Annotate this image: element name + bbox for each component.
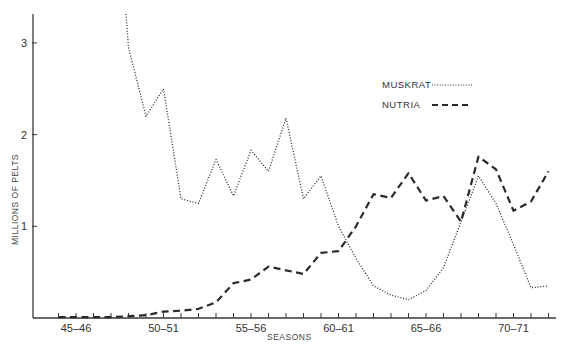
y-tick-label: 2 bbox=[21, 129, 27, 141]
y-tick-label: 1 bbox=[21, 220, 27, 232]
x-tick-label: 55–56 bbox=[236, 322, 267, 334]
legend-label-muskrat: MUSKRAT bbox=[382, 79, 431, 90]
x-tick-label: 45–46 bbox=[61, 322, 92, 334]
x-tick-label: 50–51 bbox=[148, 322, 179, 334]
chart: 12345–4650–5155–5660–6165–6670–71 MILLIO… bbox=[0, 0, 566, 355]
x-axis-title: SEASONS bbox=[267, 332, 312, 342]
legend: MUSKRAT NUTRIA bbox=[382, 79, 473, 110]
x-tick-label: 70–71 bbox=[498, 322, 529, 334]
legend-label-nutria: NUTRIA bbox=[382, 99, 421, 110]
axes bbox=[33, 14, 556, 318]
series-nutria-line bbox=[59, 157, 549, 318]
x-tick-label: 60–61 bbox=[323, 322, 354, 334]
series-lines bbox=[59, 14, 549, 317]
y-tick-label: 3 bbox=[21, 37, 27, 49]
y-axis-title: MILLIONS OF PELTS bbox=[10, 154, 20, 245]
x-tick-label: 65–66 bbox=[411, 322, 442, 334]
series-muskrat-line bbox=[126, 14, 549, 300]
axis-ticks: 12345–4650–5155–5660–6165–6670–71 bbox=[21, 37, 549, 334]
